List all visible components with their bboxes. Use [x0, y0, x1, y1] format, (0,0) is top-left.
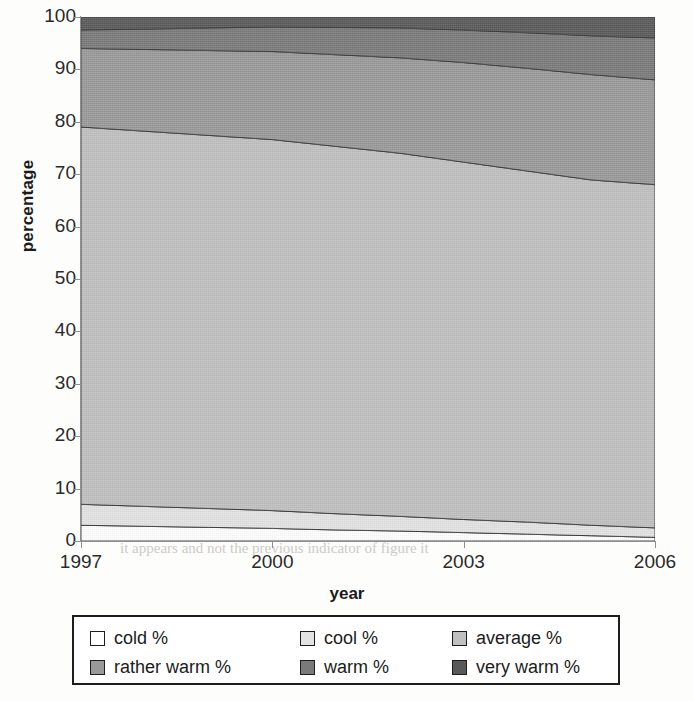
- legend-item-cold-[interactable]: cold %: [90, 628, 300, 649]
- legend-swatch-icon: [90, 631, 105, 646]
- y-tick-label: 20: [20, 424, 76, 446]
- legend-item-cool-[interactable]: cool %: [300, 628, 452, 649]
- y-tick-mark: [73, 227, 80, 228]
- y-tick-label: 40: [20, 319, 76, 341]
- x-axis-title: year: [0, 584, 694, 604]
- area-band-average: [81, 127, 655, 528]
- y-tick-mark: [73, 436, 80, 437]
- stacked-area-chart: percentage 0102030405060708090100 199720…: [0, 0, 694, 600]
- x-tick-label: 2006: [620, 551, 690, 573]
- legend-swatch-icon: [452, 660, 467, 675]
- legend-label: cool %: [324, 628, 378, 649]
- y-tick-mark: [73, 69, 80, 70]
- x-tick-label: 2000: [237, 551, 307, 573]
- y-tick-label: 100: [20, 5, 76, 27]
- y-tick-mark: [73, 279, 80, 280]
- legend-item-rather-warm-[interactable]: rather warm %: [90, 657, 300, 678]
- y-tick-label: 50: [20, 267, 76, 289]
- legend-item-average-[interactable]: average %: [452, 628, 562, 649]
- x-tick-mark: [464, 542, 465, 548]
- legend-swatch-icon: [300, 660, 315, 675]
- y-tick-label: 10: [20, 477, 76, 499]
- legend-swatch-icon: [90, 660, 105, 675]
- y-tick-label: 90: [20, 57, 76, 79]
- x-tick-mark: [81, 542, 82, 548]
- x-axis-line: [80, 541, 656, 542]
- legend-label: cold %: [114, 628, 168, 649]
- y-tick-mark: [73, 331, 80, 332]
- legend-label: warm %: [324, 657, 389, 678]
- legend-row: cold %cool %average %: [90, 624, 618, 653]
- chart-legend: cold %cool %average %rather warm %warm %…: [72, 615, 620, 685]
- legend-swatch-icon: [300, 631, 315, 646]
- legend-label: very warm %: [476, 657, 580, 678]
- y-tick-mark: [73, 541, 80, 542]
- y-tick-label: 80: [20, 110, 76, 132]
- area-bands: [81, 17, 655, 541]
- legend-swatch-icon: [452, 631, 467, 646]
- x-tick-mark: [272, 542, 273, 548]
- y-tick-mark: [73, 174, 80, 175]
- legend-item-warm-[interactable]: warm %: [300, 657, 452, 678]
- legend-row: rather warm %warm %very warm %: [90, 653, 618, 682]
- plot-area: [81, 17, 655, 541]
- y-tick-label: 30: [20, 372, 76, 394]
- legend-label: rather warm %: [114, 657, 231, 678]
- y-tick-mark: [73, 122, 80, 123]
- y-tick-mark: [73, 17, 80, 18]
- x-tick-label: 1997: [46, 551, 116, 573]
- legend-item-very-warm-[interactable]: very warm %: [452, 657, 580, 678]
- y-tick-label: 0: [20, 529, 76, 551]
- legend-label: average %: [476, 628, 562, 649]
- x-tick-label: 2003: [429, 551, 499, 573]
- x-tick-mark: [655, 542, 656, 548]
- y-tick-label: 60: [20, 215, 76, 237]
- y-tick-label: 70: [20, 162, 76, 184]
- y-tick-mark: [73, 489, 80, 490]
- y-tick-mark: [73, 384, 80, 385]
